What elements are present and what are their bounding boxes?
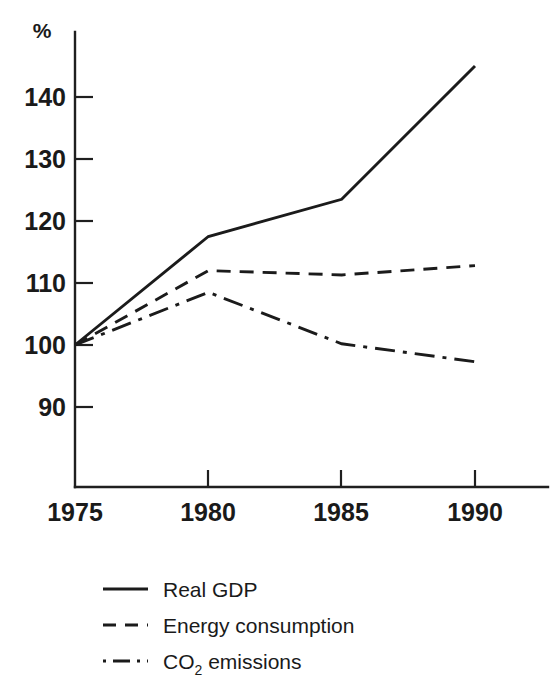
y-tick-label-120: 120 — [24, 207, 66, 235]
legend-item-co2-emissions: CO2 emissions — [103, 650, 302, 678]
x-tick-label-1980: 1980 — [180, 498, 236, 526]
y-tick-label-130: 130 — [24, 145, 66, 173]
chart-legend: Real GDP Energy consumption CO2 emission… — [103, 578, 354, 678]
y-tick-label-110: 110 — [26, 269, 66, 297]
y-tick-label-90: 90 — [38, 393, 66, 421]
y-axis-unit-label: % — [33, 19, 52, 42]
y-axis-ticks — [75, 97, 93, 407]
legend-item-real-gdp: Real GDP — [103, 578, 258, 601]
legend-label-co2-base: CO — [163, 650, 195, 673]
legend-label-co2-emissions: CO2 emissions — [163, 650, 302, 678]
chart-figure: % 140 130 120 110 100 90 — [0, 0, 560, 694]
series-line-energy-consumption — [75, 266, 475, 345]
y-tick-label-100: 100 — [24, 331, 66, 359]
series-line-real-gdp — [75, 66, 475, 345]
y-axis-tick-labels: 140 130 120 110 100 90 — [24, 83, 66, 421]
x-axis-ticks — [208, 470, 475, 487]
series-group — [75, 66, 475, 362]
x-tick-label-1975: 1975 — [47, 498, 103, 526]
line-chart-canvas: % 140 130 120 110 100 90 — [0, 0, 560, 694]
series-line-co2-emissions — [75, 292, 475, 361]
x-axis-tick-labels: 1975 1980 1985 1990 — [47, 498, 503, 526]
y-tick-label-140: 140 — [24, 83, 66, 111]
legend-label-energy-consumption: Energy consumption — [163, 614, 354, 637]
x-tick-label-1985: 1985 — [313, 498, 369, 526]
x-tick-label-1990: 1990 — [447, 498, 503, 526]
legend-label-co2-subscript: 2 — [195, 662, 203, 678]
legend-item-energy-consumption: Energy consumption — [103, 614, 354, 637]
legend-label-real-gdp: Real GDP — [163, 578, 258, 601]
legend-label-co2-suffix: emissions — [202, 650, 301, 673]
